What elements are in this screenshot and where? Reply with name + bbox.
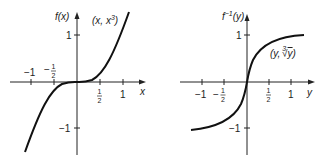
- x-tick-label-neg-half: − 1 2: [44, 63, 56, 79]
- svg-text:−: −: [213, 89, 219, 100]
- y-tick-label-neg1: −1: [229, 123, 241, 134]
- y-axis-label: f(x): [55, 11, 69, 22]
- left-plot: f(x) x (x, x3) −1 − 1 2 1 2 1 1 −1: [10, 11, 146, 155]
- svg-text:1: 1: [98, 88, 102, 95]
- x-axis-arrow-icon: [139, 80, 146, 85]
- y-axis-label: f−1(y): [222, 10, 244, 22]
- svg-text:1: 1: [267, 87, 271, 94]
- svg-text:2: 2: [52, 72, 56, 79]
- y-axis-arrow-icon: [245, 14, 250, 21]
- svg-text:2: 2: [267, 96, 271, 103]
- function-inverse-figure: f(x) x (x, x3) −1 − 1 2 1 2 1 1 −1: [0, 0, 324, 162]
- right-plot: f−1(y) y (y, 3√y) −1 − 1 2 1 2 1 1 −1: [180, 10, 315, 155]
- curve-label: (y, 3√y): [270, 45, 296, 59]
- x-axis-label: y: [306, 87, 313, 98]
- x-axis-label: x: [139, 86, 146, 97]
- x-tick-label-half: 1 2: [266, 87, 271, 103]
- svg-text:−: −: [44, 64, 50, 75]
- curve-label: (x, x3): [92, 14, 118, 26]
- x-tick-label-neg1: −1: [24, 67, 36, 78]
- svg-text:1: 1: [52, 63, 56, 70]
- x-axis-arrow-icon: [308, 80, 315, 85]
- y-axis-arrow-icon: [75, 12, 80, 19]
- svg-text:2: 2: [98, 97, 102, 104]
- x-tick-label-half: 1 2: [97, 88, 102, 104]
- y-tick-label-neg1: −1: [59, 123, 71, 134]
- x-tick-label-1: 1: [120, 89, 126, 100]
- y-tick-label-1: 1: [236, 30, 242, 41]
- x-tick-label-neg-half: − 1 2: [213, 87, 226, 103]
- x-tick-label-neg1: −1: [195, 89, 207, 100]
- x-tick-label-1: 1: [288, 89, 294, 100]
- svg-text:1: 1: [221, 87, 225, 94]
- y-tick-label-1: 1: [66, 30, 72, 41]
- svg-text:2: 2: [221, 96, 225, 103]
